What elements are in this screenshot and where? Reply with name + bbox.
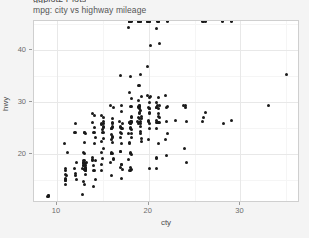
data-point bbox=[110, 127, 113, 130]
data-point bbox=[155, 127, 158, 130]
data-point bbox=[147, 138, 150, 141]
data-point bbox=[111, 121, 114, 124]
data-point bbox=[94, 136, 97, 139]
data-point bbox=[222, 122, 225, 125]
data-point bbox=[93, 142, 96, 145]
data-point bbox=[120, 104, 123, 107]
x-axis-title: cty bbox=[161, 218, 171, 227]
data-point bbox=[64, 173, 67, 176]
x-axis-tick-mark bbox=[239, 202, 240, 205]
data-point bbox=[100, 163, 103, 166]
data-point bbox=[139, 109, 142, 112]
x-axis-tick-mark bbox=[148, 202, 149, 205]
data-point bbox=[158, 42, 161, 45]
x-axis-tick-label: 30 bbox=[235, 206, 243, 215]
data-point bbox=[155, 157, 158, 160]
data-point bbox=[94, 178, 97, 181]
data-point bbox=[91, 112, 94, 115]
data-point bbox=[127, 158, 130, 161]
data-point bbox=[164, 138, 167, 141]
data-point bbox=[84, 173, 87, 176]
data-point bbox=[185, 161, 188, 164]
y-axis-tick-mark bbox=[29, 153, 32, 154]
data-point bbox=[230, 119, 233, 122]
data-point bbox=[47, 194, 50, 197]
data-point bbox=[82, 180, 85, 183]
gridline-horizontal-minor bbox=[34, 76, 298, 77]
data-point bbox=[146, 65, 149, 68]
data-point bbox=[130, 116, 133, 119]
data-point bbox=[93, 126, 96, 129]
gridline-horizontal-minor bbox=[34, 24, 298, 25]
data-point bbox=[93, 169, 96, 172]
data-point bbox=[102, 147, 105, 150]
data-point bbox=[129, 75, 132, 78]
data-point bbox=[139, 73, 142, 76]
data-point bbox=[100, 123, 103, 126]
data-point bbox=[119, 166, 122, 169]
data-point bbox=[139, 21, 142, 23]
data-point bbox=[120, 163, 123, 166]
data-point bbox=[183, 147, 186, 150]
gridline-horizontal-minor bbox=[34, 128, 298, 129]
data-point bbox=[130, 168, 133, 171]
gridline-vertical-minor bbox=[286, 21, 287, 201]
data-point bbox=[165, 120, 168, 123]
data-point bbox=[148, 101, 151, 104]
data-point bbox=[111, 136, 114, 139]
data-point bbox=[64, 179, 67, 182]
x-axis-tick-label: 20 bbox=[144, 206, 152, 215]
data-point bbox=[120, 142, 123, 145]
gridline-horizontal-minor bbox=[34, 180, 298, 181]
data-point bbox=[155, 27, 158, 30]
data-point bbox=[93, 131, 96, 134]
data-point bbox=[119, 74, 122, 77]
data-point bbox=[83, 183, 86, 186]
data-point bbox=[64, 183, 67, 186]
data-point bbox=[130, 136, 133, 139]
x-axis-tick-label: 10 bbox=[52, 206, 60, 215]
data-point bbox=[73, 167, 76, 170]
data-point bbox=[110, 174, 113, 177]
data-point bbox=[74, 172, 77, 175]
y-axis-tick-label: 40 bbox=[18, 44, 26, 53]
data-point bbox=[139, 125, 142, 128]
gridline-vertical-minor bbox=[103, 21, 104, 201]
data-point bbox=[130, 105, 133, 108]
data-point bbox=[101, 128, 104, 131]
data-point bbox=[164, 94, 167, 97]
data-point bbox=[121, 122, 124, 125]
data-point bbox=[147, 120, 150, 123]
data-point bbox=[102, 116, 105, 119]
data-point bbox=[157, 21, 160, 23]
data-point bbox=[202, 21, 205, 23]
y-axis-tick-label: 20 bbox=[18, 148, 26, 157]
data-point bbox=[156, 104, 159, 107]
data-point bbox=[101, 157, 104, 160]
data-point bbox=[75, 161, 78, 164]
data-point bbox=[112, 158, 115, 161]
data-point bbox=[100, 151, 103, 154]
data-point bbox=[83, 131, 86, 134]
data-point bbox=[92, 164, 95, 167]
data-point bbox=[157, 112, 160, 115]
data-point bbox=[128, 21, 131, 23]
data-point bbox=[102, 131, 105, 134]
data-point bbox=[148, 127, 151, 130]
data-point bbox=[128, 91, 131, 94]
data-point bbox=[119, 136, 122, 139]
data-point bbox=[81, 193, 84, 196]
data-point bbox=[84, 164, 87, 167]
plot-title: ggplot2 Plots bbox=[33, 0, 86, 3]
data-point bbox=[75, 178, 78, 181]
y-axis-tick-mark bbox=[29, 49, 32, 50]
y-axis-tick-mark bbox=[29, 101, 32, 102]
data-point bbox=[130, 128, 133, 131]
data-point bbox=[267, 104, 270, 107]
data-point bbox=[140, 140, 143, 143]
gridline-vertical-minor bbox=[195, 21, 196, 201]
y-axis-tick-label: 30 bbox=[18, 96, 26, 105]
data-point bbox=[166, 132, 169, 135]
data-point bbox=[91, 121, 94, 124]
data-point bbox=[156, 121, 159, 124]
